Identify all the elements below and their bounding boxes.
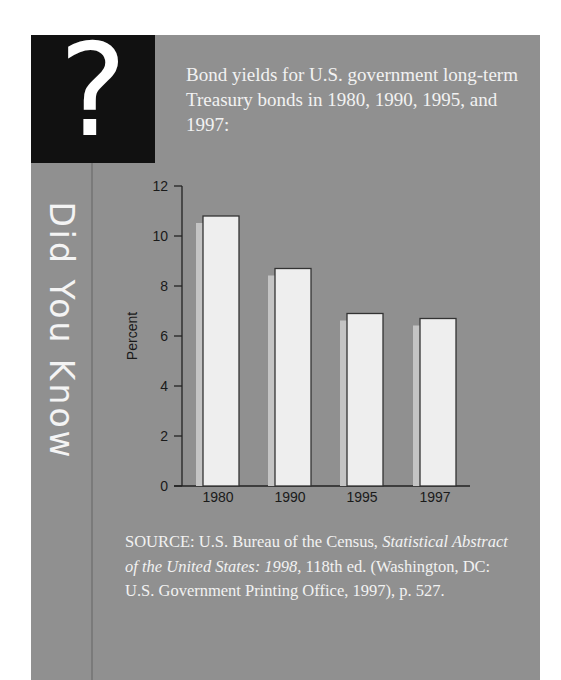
y-tick-label: 6 xyxy=(138,328,168,344)
bar-shadow xyxy=(340,321,347,487)
y-tick-label: 4 xyxy=(138,378,168,394)
source-citation: SOURCE: U.S. Bureau of the Census, Stati… xyxy=(125,530,517,604)
x-category-label: 1990 xyxy=(260,489,320,505)
bar-shadow xyxy=(268,276,275,487)
bar-1997 xyxy=(420,319,456,487)
y-tick-label: 12 xyxy=(138,178,168,194)
y-axis-label: Percent xyxy=(124,312,140,360)
y-tick-label: 8 xyxy=(138,278,168,294)
bar-1995 xyxy=(347,314,383,487)
y-tick-label: 2 xyxy=(138,428,168,444)
x-category-label: 1980 xyxy=(188,489,248,505)
source-prefix: SOURCE: U.S. Bureau of the Census, xyxy=(125,532,382,551)
bar-shadow xyxy=(413,326,420,487)
y-tick-label: 10 xyxy=(138,228,168,244)
x-category-label: 1995 xyxy=(332,489,392,505)
bar-1990 xyxy=(275,269,311,487)
bar-shadow xyxy=(196,223,203,486)
y-tick-label: 0 xyxy=(138,478,168,494)
bar-1980 xyxy=(203,216,239,486)
x-category-label: 1997 xyxy=(405,489,465,505)
